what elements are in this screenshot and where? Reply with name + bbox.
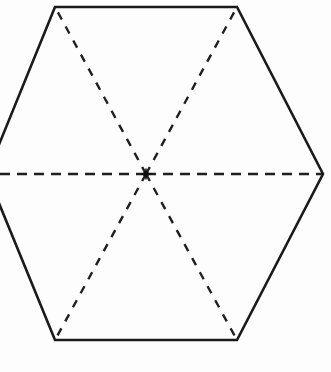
hexagon-diagram-svg: [0, 0, 331, 372]
hexagon-figure: Regular hexagon divided into six triangl…: [0, 0, 331, 372]
